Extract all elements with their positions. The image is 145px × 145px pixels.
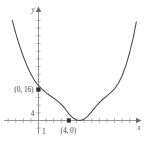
vertex-label: (4, 0) — [61, 127, 77, 135]
x-axis-label: x — [137, 124, 142, 132]
parabola-curve — [12, 20, 136, 120]
y-axis-arrow-icon — [36, 7, 42, 13]
parabola-figure: y x 1 4 (0, 16) (4, 0) — [0, 0, 145, 145]
y-axis-label: y — [31, 6, 36, 14]
y-tick-label-4: 4 — [31, 109, 35, 118]
y-intercept-label: (0, 16) — [14, 86, 34, 94]
vertex-point — [67, 119, 71, 123]
x-tick-label-1: 1 — [42, 127, 46, 136]
y-intercept-point — [37, 88, 41, 92]
x-axis-arrow-icon — [136, 118, 142, 124]
figure-canvas: y x 1 4 (0, 16) (4, 0) — [0, 0, 145, 145]
